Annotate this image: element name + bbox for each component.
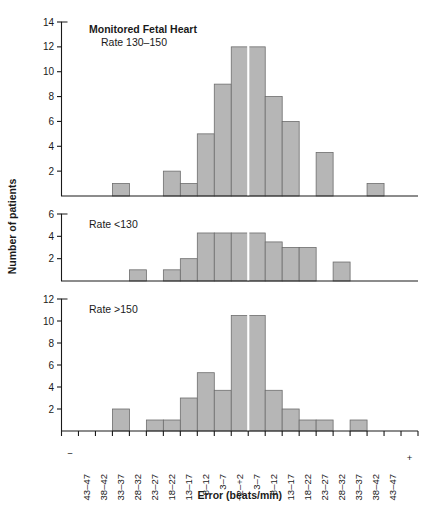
x-tick-label: 33–37	[353, 474, 364, 500]
panel-title-plain: Rate 130–150	[101, 36, 167, 48]
bars-group	[129, 233, 350, 281]
bar	[265, 242, 282, 281]
bar	[112, 409, 129, 431]
bar	[265, 390, 282, 431]
panel-rate-130-150: 2468101214Monitored Fetal HeartRate 130–…	[43, 17, 418, 196]
bars-group	[112, 316, 367, 432]
bar	[163, 171, 180, 196]
panel-rate-over-150: 24681012Rate >150	[43, 294, 418, 431]
bar	[197, 373, 214, 431]
bar	[299, 248, 316, 282]
bar	[299, 420, 316, 431]
x-tick-label: 13–17	[183, 474, 194, 500]
bar	[214, 84, 231, 196]
x-tick-label: 38–42	[370, 474, 381, 500]
bar	[231, 47, 248, 196]
bar	[146, 420, 163, 431]
bar	[316, 153, 333, 197]
bar	[163, 420, 180, 431]
bar	[367, 184, 384, 196]
panel-title-plain: Rate >150	[89, 303, 138, 315]
y-axis-title: Number of patients	[6, 179, 18, 275]
bar	[180, 398, 197, 431]
x-tick-label: 38–42	[98, 474, 109, 500]
y-tick-label: 6	[48, 360, 54, 371]
y-tick-label: 4	[48, 231, 54, 242]
x-axis-title: Error (beats/min)	[197, 489, 282, 501]
y-tick-label: 2	[48, 166, 54, 177]
bar	[248, 233, 265, 281]
x-tick-label: 18–22	[166, 474, 177, 500]
x-tick-label: 28–32	[336, 474, 347, 500]
bar	[248, 316, 265, 432]
x-tick-label: 28–32	[132, 474, 143, 500]
panel-rate-under-130: 246Rate <130	[48, 209, 418, 281]
y-tick-label: 14	[43, 17, 55, 28]
bar	[350, 420, 367, 431]
bar	[214, 233, 231, 281]
bar	[129, 270, 146, 281]
y-tick-label: 10	[43, 66, 55, 77]
bar	[163, 270, 180, 281]
bar	[248, 47, 265, 196]
bar	[265, 97, 282, 196]
y-tick-label: 8	[48, 91, 54, 102]
x-tick-label: 13–17	[285, 474, 296, 500]
bar	[231, 233, 248, 281]
x-tick-label: 33–37	[115, 474, 126, 500]
bar	[231, 316, 248, 432]
x-tick-label: 43–47	[81, 474, 92, 500]
bar	[180, 259, 197, 281]
x-tick-label: 3–7	[217, 474, 228, 490]
y-tick-label: 12	[43, 41, 55, 52]
y-tick-label: 2	[48, 253, 54, 264]
panel-title-bold: Monitored Fetal Heart	[89, 23, 197, 35]
x-axis-end-label-negative: −	[67, 448, 73, 459]
bar	[282, 121, 299, 196]
y-tick-label: 6	[48, 209, 54, 220]
histogram-chart: 2468101214Monitored Fetal HeartRate 130–…	[0, 0, 427, 505]
bar	[197, 134, 214, 196]
x-tick-label: 23–27	[319, 474, 330, 500]
x-tick-label: 43–47	[387, 474, 398, 500]
bar	[112, 184, 129, 196]
figure-container: 2468101214Monitored Fetal HeartRate 130–…	[0, 0, 427, 505]
bar	[316, 420, 333, 431]
panel-title-plain: Rate <130	[89, 218, 138, 230]
x-tick-label: 3–7	[251, 474, 262, 490]
x-axis-end-label-positive: +	[407, 452, 413, 463]
y-tick-label: 4	[48, 382, 54, 393]
y-tick-label: 4	[48, 141, 54, 152]
bar	[333, 262, 350, 281]
x-tick-label: 18–22	[302, 474, 313, 500]
bar	[180, 184, 197, 196]
y-tick-label: 12	[43, 294, 55, 305]
bar	[214, 390, 231, 431]
bar	[282, 409, 299, 431]
bar	[197, 233, 214, 281]
y-tick-label: 8	[48, 338, 54, 349]
bar	[282, 248, 299, 282]
y-tick-label: 6	[48, 116, 54, 127]
y-tick-label: 2	[48, 404, 54, 415]
y-tick-label: 10	[43, 316, 55, 327]
x-tick-label: 23–27	[149, 474, 160, 500]
